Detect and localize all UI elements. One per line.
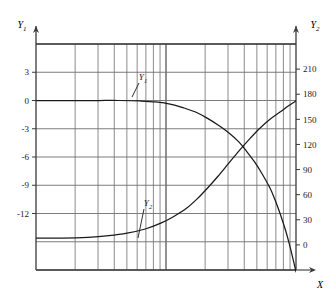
y2-tick-label: 180	[303, 89, 317, 99]
y2-tick-label: 210	[303, 64, 317, 74]
y1-tick-label: 0	[25, 96, 30, 106]
y2-tick-label: 90	[303, 165, 313, 175]
bode-plot-svg: 30-3-6-9-12 2101801501209060300 Y1Y2 Y1 …	[0, 0, 336, 304]
y2-tick-label: 0	[303, 240, 308, 250]
y1-tick-label: -3	[22, 124, 30, 134]
chart-figure: 30-3-6-9-12 2101801501209060300 Y1Y2 Y1 …	[0, 0, 336, 304]
y2-tick-label: 30	[303, 215, 313, 225]
chart-background	[0, 0, 336, 304]
x-axis-label: X	[316, 279, 324, 290]
y1-tick-label: -12	[17, 209, 29, 219]
y2-tick-label: 150	[303, 115, 317, 125]
y1-tick-label: -6	[22, 152, 30, 162]
y1-tick-label: -9	[22, 180, 30, 190]
y2-tick-label: 120	[303, 140, 317, 150]
y2-tick-label: 60	[303, 190, 313, 200]
y1-tick-label: 3	[25, 67, 30, 77]
